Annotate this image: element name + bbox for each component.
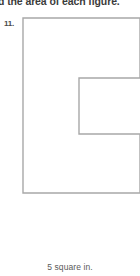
answer-text: 5 square in. (0, 262, 140, 272)
c-shaped-polygon-figure (0, 0, 140, 250)
figure-outline-path (23, 18, 140, 193)
worksheet-page: d the area of each figure. 11. 5 square … (0, 0, 140, 276)
figure-container (0, 0, 140, 250)
